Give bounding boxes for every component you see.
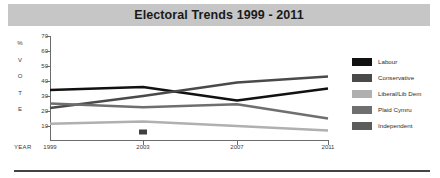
x-axis-ticks: 1999 2003 2007 2011 — [0, 144, 440, 158]
legend-label: Plaid Cymru — [378, 107, 412, 113]
legend-label: Labour — [378, 59, 397, 65]
legend-label: Independent — [378, 123, 412, 129]
legend-item-labour[interactable]: Labour — [352, 54, 440, 70]
footer-rule — [14, 170, 430, 172]
legend-label: Conservative — [378, 75, 414, 81]
legend-swatch-icon — [352, 122, 372, 130]
legend-swatch-icon — [352, 58, 372, 66]
x-tick-label: 2003 — [136, 144, 149, 150]
chart-page: Electoral Trends 1999 - 2011 % V O T E 7… — [0, 0, 440, 178]
chart-legend: Labour Conservative Liberal/Lib Dem Plai… — [352, 54, 440, 134]
legend-item-plaid-cymru[interactable]: Plaid Cymru — [352, 102, 440, 118]
legend-swatch-icon — [352, 74, 372, 82]
series-line-plaid-cymru — [50, 104, 328, 119]
legend-item-independent[interactable]: Independent — [352, 118, 440, 134]
legend-swatch-icon — [352, 106, 372, 114]
x-tick-label: 1999 — [43, 144, 56, 150]
series-line-conservative — [50, 77, 328, 109]
legend-item-liberal[interactable]: Liberal/Lib Dem — [352, 86, 440, 102]
chart-title: Electoral Trends 1999 - 2011 — [8, 4, 430, 26]
legend-label: Liberal/Lib Dem — [378, 91, 421, 97]
x-tick-label: 2011 — [322, 144, 335, 150]
legend-item-conservative[interactable]: Conservative — [352, 70, 440, 86]
series-line-liberal-lib-dem — [50, 122, 328, 131]
data-series-layer — [50, 77, 328, 135]
x-tick-label: 2007 — [230, 144, 243, 150]
legend-swatch-icon — [352, 90, 372, 98]
title-band: Electoral Trends 1999 - 2011 — [8, 4, 430, 26]
series-marker-independent — [139, 130, 147, 135]
